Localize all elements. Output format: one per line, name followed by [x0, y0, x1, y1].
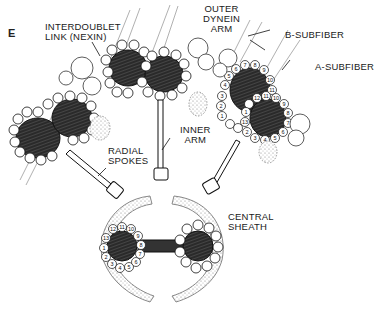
svg-text:3: 3	[220, 93, 223, 99]
svg-text:9: 9	[136, 233, 139, 239]
svg-text:8: 8	[286, 110, 289, 116]
svg-text:10: 10	[273, 95, 279, 101]
label-inner-arm: INNER ARM	[180, 125, 211, 145]
svg-text:9: 9	[262, 67, 265, 73]
svg-text:5: 5	[127, 264, 130, 270]
svg-text:8: 8	[253, 62, 256, 68]
svg-text:13: 13	[103, 235, 109, 241]
svg-text:4: 4	[223, 82, 226, 88]
doublet-right: 123 456 789 1011 1132 345 678 9101112	[213, 49, 310, 163]
svg-text:7: 7	[243, 62, 246, 68]
doublet-left	[9, 57, 110, 165]
svg-text:9: 9	[282, 101, 285, 107]
svg-text:11: 11	[263, 93, 269, 99]
svg-text:6: 6	[134, 259, 137, 265]
svg-text:6: 6	[281, 129, 284, 135]
svg-text:5: 5	[227, 73, 230, 79]
axoneme-diagram: 123 456 789 1011 1132 345 678 9101112	[0, 0, 380, 314]
svg-text:10: 10	[267, 77, 273, 83]
svg-text:1: 1	[220, 113, 223, 119]
svg-text:4: 4	[118, 265, 121, 271]
svg-text:10: 10	[128, 226, 134, 232]
panel-letter: E	[8, 27, 15, 39]
svg-text:12: 12	[110, 226, 116, 232]
svg-text:7: 7	[286, 120, 289, 126]
svg-text:5: 5	[273, 135, 276, 141]
label-b-subfiber: B-SUBFIBER	[285, 30, 344, 40]
svg-text:3: 3	[110, 261, 113, 267]
svg-text:6: 6	[234, 66, 237, 72]
label-radial-spokes: RADIAL SPOKES	[108, 146, 148, 166]
svg-text:7: 7	[138, 251, 141, 257]
svg-text:1: 1	[244, 109, 247, 115]
svg-text:12: 12	[254, 95, 260, 101]
svg-text:2: 2	[219, 103, 222, 109]
svg-text:2: 2	[104, 254, 107, 260]
svg-text:1: 1	[102, 245, 105, 251]
label-a-subfiber: A-SUBFIBER	[315, 62, 374, 72]
svg-text:8: 8	[139, 242, 142, 248]
axoneme-illustration: 123 456 789 1011 1132 345 678 9101112	[0, 0, 380, 314]
label-central-sheath: CENTRAL SHEATH	[228, 212, 274, 232]
svg-text:13: 13	[242, 119, 248, 125]
label-outer-dynein-arm: OUTER DYNEIN ARM	[203, 4, 240, 34]
svg-text:2: 2	[245, 129, 248, 135]
svg-text:3: 3	[253, 135, 256, 141]
label-interdoublet-link: INTERDOUBLET LINK (NEXIN)	[45, 22, 121, 42]
svg-text:11: 11	[269, 87, 275, 93]
svg-text:11: 11	[119, 224, 125, 230]
